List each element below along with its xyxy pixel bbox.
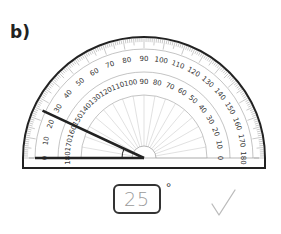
svg-text:180: 180 xyxy=(239,151,247,164)
check-mark-icon xyxy=(210,188,238,218)
degree-symbol: ° xyxy=(166,180,171,195)
answer-value: 25 xyxy=(124,188,150,210)
svg-text:80: 80 xyxy=(152,78,162,87)
svg-text:10: 10 xyxy=(214,140,223,150)
answer-input-box[interactable]: 25 xyxy=(113,184,161,214)
svg-text:90: 90 xyxy=(140,55,149,63)
svg-text:90: 90 xyxy=(140,78,149,86)
svg-text:0: 0 xyxy=(216,156,224,160)
svg-text:10: 10 xyxy=(42,136,51,146)
svg-text:80: 80 xyxy=(122,56,132,65)
